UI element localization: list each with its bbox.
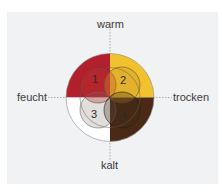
axis-label-feucht: feucht bbox=[17, 91, 47, 103]
quadrant-number-3: 3 bbox=[91, 108, 97, 120]
quadrant-number-2: 2 bbox=[120, 74, 126, 86]
axis-label-trocken: trocken bbox=[173, 91, 209, 103]
axis-label-kalt: kalt bbox=[101, 159, 118, 171]
quadrant-number-1: 1 bbox=[92, 73, 98, 85]
quadrant-number-4: 4 bbox=[121, 109, 127, 121]
inner-circles bbox=[80, 67, 140, 128]
axis-label-warm: warm bbox=[97, 18, 124, 30]
